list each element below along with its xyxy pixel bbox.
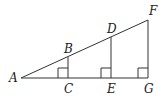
right-angle-marker-C: [58, 68, 68, 78]
triangle-diagram: A B C D E F G: [0, 0, 166, 99]
right-angle-marker-E: [101, 68, 111, 78]
diagram-canvas: A B C D E F G: [0, 0, 166, 99]
point-label-C: C: [64, 82, 73, 96]
point-label-F: F: [148, 4, 158, 18]
point-label-B: B: [63, 42, 73, 56]
point-label-G: G: [144, 82, 154, 96]
segment-AF: [21, 20, 148, 78]
point-label-A: A: [8, 71, 18, 85]
point-label-D: D: [106, 22, 117, 36]
point-label-E: E: [106, 82, 116, 96]
right-angle-marker-G: [138, 68, 148, 78]
